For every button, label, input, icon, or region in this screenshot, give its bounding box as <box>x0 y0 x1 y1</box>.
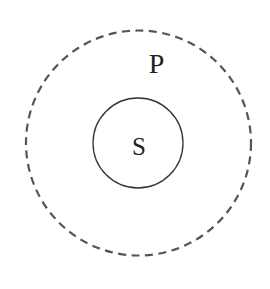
inner-set-label: S <box>132 133 146 160</box>
set-diagram: P S <box>0 0 270 289</box>
outer-set-label: P <box>149 48 165 79</box>
